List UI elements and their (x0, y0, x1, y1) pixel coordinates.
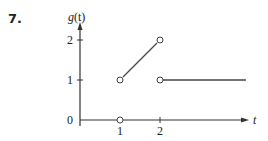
y-tick-label-1: 1 (67, 73, 73, 87)
open-circle-icon (117, 117, 123, 123)
y-tick-label-0: 0 (67, 113, 73, 127)
segment-linear (123, 43, 157, 77)
y-axis (77, 22, 83, 126)
x-axis-label: t (253, 113, 257, 127)
x-tick-label-1: 1 (117, 124, 123, 138)
open-circle-icon (157, 77, 163, 83)
open-circle-icon (157, 37, 163, 43)
piecewise-graph: g(t) t 2 1 0 1 2 (0, 0, 268, 141)
y-axis-label: g(t) (68, 10, 85, 24)
x-axis-arrow-icon (241, 118, 249, 123)
x-tick-label-2: 2 (157, 124, 163, 138)
open-circle-icon (117, 77, 123, 83)
y-tick-label-2: 2 (67, 33, 73, 47)
x-axis (80, 117, 249, 123)
